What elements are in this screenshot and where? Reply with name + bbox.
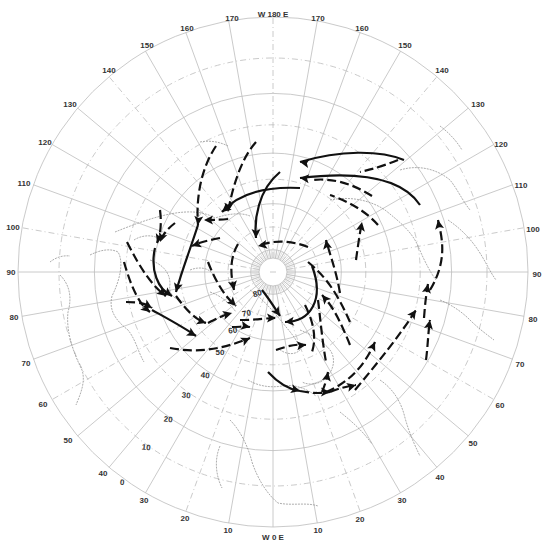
meridian-260	[22, 228, 259, 270]
storm-track	[276, 341, 306, 351]
latitude-label: 60	[228, 326, 238, 336]
storm-track	[252, 172, 281, 238]
meridian-label: 10	[224, 526, 233, 535]
meridian-230	[78, 108, 263, 263]
latitude-label: 80	[252, 288, 263, 299]
meridian-label: 50	[64, 436, 73, 445]
meridian-50	[284, 281, 469, 436]
storm-track	[176, 296, 208, 327]
meridian-100	[287, 228, 524, 270]
polar-stereographic-map: W 180 E170160150140130120110100908070605…	[0, 0, 547, 546]
meridian-label: 50	[469, 439, 478, 448]
meridian-label: 90	[533, 270, 542, 279]
storm-track	[430, 219, 444, 290]
meridian-label: 90	[7, 268, 16, 277]
arrowhead-icon	[297, 341, 307, 351]
storm-track	[330, 195, 378, 225]
polar-spoke	[251, 273, 259, 274]
arrowhead-icon	[300, 174, 310, 184]
meridian-280	[22, 274, 259, 316]
latitude-label: 0	[120, 478, 126, 487]
meridian-label: 30	[140, 496, 149, 505]
meridian-label: 30	[398, 496, 407, 505]
meridian-170	[275, 21, 317, 258]
storm-track	[194, 146, 216, 225]
meridian-label: 60	[496, 401, 505, 410]
storm-track	[152, 310, 198, 340]
latitude-label: 70	[241, 308, 252, 319]
meridian-label: 40	[436, 473, 445, 482]
arrowhead-icon	[196, 316, 208, 328]
meridian-label: 120	[38, 138, 52, 147]
track-line	[355, 310, 416, 390]
track-line	[256, 172, 280, 238]
track-line	[152, 310, 196, 336]
meridian-label: 70	[22, 359, 31, 368]
track-line	[330, 195, 378, 225]
graticule-labels: W 180 E170160150140130120110100908070605…	[6, 10, 542, 542]
meridian-label: 110	[515, 181, 528, 190]
latitude-label: 30	[181, 391, 191, 401]
meridian-label: 130	[471, 100, 485, 109]
storm-track	[224, 142, 256, 212]
track-line	[430, 220, 442, 290]
meridian-label: 160	[355, 24, 369, 33]
polar-spoke	[251, 270, 259, 271]
polar-spoke	[287, 270, 295, 271]
polar-spoke	[274, 250, 275, 258]
meridian-label: 80	[10, 313, 19, 322]
meridian-190	[229, 21, 271, 258]
meridian-label: 100	[526, 225, 540, 234]
meridian-label: W 0 E	[262, 533, 284, 542]
storm-track	[356, 221, 366, 260]
meridian-label: 60	[39, 400, 48, 409]
meridian-label: 20	[181, 514, 190, 523]
meridian-40	[282, 283, 437, 468]
meridian-label: 120	[494, 140, 508, 149]
graticule	[18, 17, 528, 527]
polar-spoke	[287, 273, 295, 274]
meridian-130	[284, 108, 469, 263]
meridian-label: 110	[18, 179, 31, 188]
meridian-label: W 180 E	[258, 10, 289, 19]
arrowhead-icon	[257, 240, 267, 250]
latitude-label: 20	[163, 415, 173, 425]
meridian-label: 140	[435, 66, 449, 75]
latitude-label: 10	[141, 443, 151, 453]
polar-spoke	[271, 286, 272, 294]
storm-track	[172, 225, 198, 293]
arrowhead-icon	[194, 216, 204, 226]
storm-track	[312, 180, 372, 196]
storm-track	[326, 340, 379, 392]
storm-track	[424, 319, 434, 360]
track-line	[322, 295, 350, 345]
meridian-label: 160	[180, 24, 194, 33]
polar-spoke	[271, 250, 272, 258]
latitude-label: 50	[216, 348, 225, 357]
meridian-label: 140	[102, 66, 116, 75]
meridian-250	[33, 185, 259, 267]
meridian-label: 100	[6, 223, 20, 232]
latitude-label: 40	[200, 371, 210, 381]
polar-spoke	[274, 286, 275, 294]
meridian-label: 70	[516, 360, 525, 369]
meridian-label: 40	[99, 469, 108, 478]
track-line	[326, 240, 340, 293]
meridian-label: 150	[398, 41, 412, 50]
meridian-label: 130	[63, 100, 77, 109]
meridian-label: 150	[140, 41, 154, 50]
track-line	[312, 180, 372, 196]
meridian-label: 20	[356, 515, 365, 524]
meridian-label: 170	[225, 14, 239, 23]
storm-track	[190, 238, 220, 250]
meridian-label: 10	[314, 526, 323, 535]
arrowhead-icon	[407, 307, 420, 320]
meridian-label: 80	[529, 315, 538, 324]
meridian-label: 170	[311, 14, 325, 23]
storm-track	[208, 309, 233, 323]
